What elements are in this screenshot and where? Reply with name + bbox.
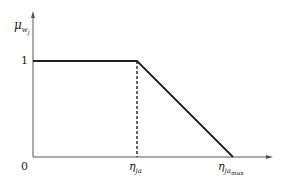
- x-tick-2-subsub: max: [231, 170, 244, 177]
- x-tick-1-sub: ja: [136, 167, 142, 175]
- x-axis-arrow-icon: [266, 155, 273, 159]
- y-label-main: μ: [14, 18, 22, 32]
- x-tick-2-main: η: [218, 160, 225, 173]
- y-tick-0: 0: [21, 160, 28, 173]
- y-tick-1: 1: [21, 54, 28, 67]
- y-axis-label: μwj: [14, 18, 30, 36]
- x-tick-1-main: η: [129, 160, 136, 173]
- membership-line: [33, 61, 233, 157]
- x-tick-eta-ja: ηja: [129, 160, 142, 175]
- x-tick-eta-ja-max: ηjamax: [218, 160, 244, 177]
- y-label-subsub: j: [28, 29, 30, 36]
- y-axis-arrow-icon: [31, 11, 35, 18]
- membership-chart: [0, 0, 287, 183]
